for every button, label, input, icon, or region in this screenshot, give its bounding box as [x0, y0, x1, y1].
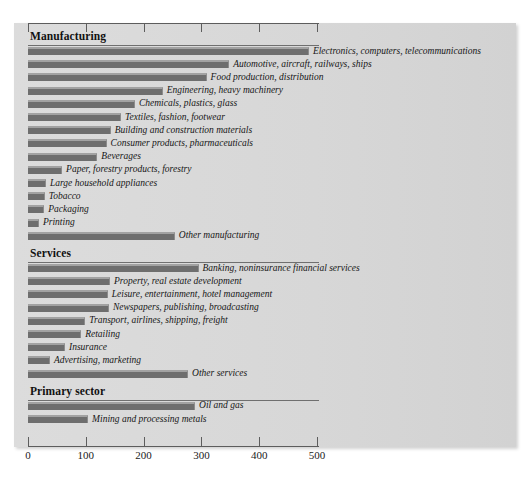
x-tick-top	[28, 23, 29, 32]
bar	[28, 219, 39, 227]
x-tick-label: 500	[309, 449, 326, 461]
bar-label: Leisure, entertainment, hotel management	[112, 289, 272, 299]
bar	[28, 264, 199, 272]
bar	[28, 73, 207, 81]
bar-label: Retailing	[85, 329, 120, 339]
bar-label: Insurance	[69, 342, 107, 352]
bar	[28, 100, 135, 108]
x-tick-label: 200	[135, 449, 152, 461]
bar	[28, 370, 188, 378]
bar-label: Large household appliances	[50, 178, 157, 188]
bar-label: Automotive, aircraft, railways, ships	[233, 59, 371, 69]
bar-label: Electronics, computers, telecommunicatio…	[313, 46, 481, 56]
bar	[28, 139, 107, 147]
x-tick-bottom	[28, 437, 29, 446]
x-tick-label: 300	[193, 449, 210, 461]
bar-label: Oil and gas	[199, 400, 243, 410]
bar	[28, 277, 110, 285]
bar	[28, 179, 46, 187]
x-tick-bottom	[144, 437, 145, 446]
bar	[28, 402, 195, 410]
bar-label: Advertising, marketing	[54, 355, 141, 365]
bar	[28, 192, 45, 200]
bar	[28, 126, 111, 134]
bar	[28, 290, 108, 298]
bar	[28, 205, 44, 213]
bar-label: Engineering, heavy machinery	[167, 85, 283, 95]
bar	[28, 60, 229, 68]
x-tick-top	[259, 23, 260, 32]
bar-label: Building and construction materials	[115, 125, 252, 135]
bar	[28, 166, 62, 174]
bar-label: Tobacco	[49, 191, 81, 201]
bar	[28, 153, 97, 161]
x-tick-bottom	[317, 437, 318, 446]
bar-label: Chemicals, plastics, glass	[139, 98, 237, 108]
bar	[28, 232, 175, 240]
bar	[28, 317, 85, 325]
bar	[28, 47, 309, 55]
bar	[28, 343, 65, 351]
section-rule	[28, 400, 319, 401]
x-tick-bottom	[201, 437, 202, 446]
bar-label: Transport, airlines, shipping, freight	[89, 315, 227, 325]
x-tick-label: 400	[251, 449, 268, 461]
bar-label: Printing	[43, 217, 75, 227]
x-tick-label: 100	[78, 449, 95, 461]
bar	[28, 415, 88, 423]
bar-label: Food production, distribution	[211, 72, 324, 82]
section-rule	[28, 45, 319, 46]
axis-line-bottom	[28, 446, 319, 447]
x-tick-label: 0	[25, 449, 31, 461]
section-heading: Manufacturing	[30, 30, 106, 42]
x-tick-top	[201, 23, 202, 32]
x-tick-top	[317, 23, 318, 32]
bar	[28, 304, 109, 312]
bar-label: Packaging	[48, 204, 89, 214]
bar-label: Other services	[192, 368, 247, 378]
bar-label: Other manufacturing	[179, 230, 259, 240]
bar-label: Paper, forestry products, forestry	[66, 164, 191, 174]
section-heading: Primary sector	[30, 385, 105, 397]
x-tick-bottom	[259, 437, 260, 446]
x-tick-top	[144, 23, 145, 32]
bar-label: Textiles, fashion, footwear	[125, 112, 225, 122]
bar	[28, 87, 163, 95]
bar-label: Property, real estate development	[114, 276, 242, 286]
bar-label: Newspapers, publishing, broadcasting	[113, 302, 259, 312]
bar	[28, 113, 121, 121]
bar-label: Beverages	[101, 151, 141, 161]
bar-label: Consumer products, pharmaceuticals	[111, 138, 253, 148]
bar-label: Banking, noninsurance financial services	[203, 263, 360, 273]
bar	[28, 356, 50, 364]
bar-chart: 0100200300400500 ManufacturingElectronic…	[0, 0, 531, 491]
bar	[28, 330, 81, 338]
axis-line-top	[28, 23, 319, 24]
x-tick-bottom	[86, 437, 87, 446]
section-heading: Services	[30, 247, 71, 259]
bar-label: Mining and processing metals	[92, 414, 206, 424]
